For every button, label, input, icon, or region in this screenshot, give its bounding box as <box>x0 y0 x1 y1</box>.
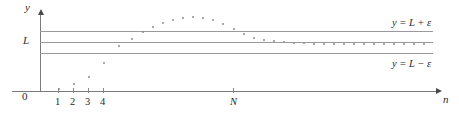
x-tick-3 <box>88 88 89 93</box>
y-axis-label: y <box>25 2 30 13</box>
sequence-point <box>373 43 375 45</box>
sequence-point <box>152 26 154 28</box>
x-tick-label-N: N <box>230 97 237 108</box>
x-tick-label-4: 4 <box>100 97 105 108</box>
sequence-point <box>363 43 365 45</box>
sequence-point <box>303 42 305 44</box>
sequence-point <box>88 76 90 78</box>
x-axis <box>12 91 437 92</box>
sequence-point <box>413 43 415 45</box>
sequence-point <box>118 45 120 47</box>
sequence-point <box>263 39 265 41</box>
sequence-point <box>343 43 345 45</box>
sequence-point <box>212 19 214 21</box>
sequence-point <box>293 42 295 44</box>
upper-band-label: y = L + ε <box>392 18 431 29</box>
sequence-point <box>283 41 285 43</box>
origin-label: 0 <box>22 91 28 102</box>
lower-band-label: y = L − ε <box>392 59 431 70</box>
sequence-point <box>383 43 385 45</box>
sequence-point <box>323 43 325 45</box>
sequence-point <box>353 43 355 45</box>
sequence-point <box>73 83 75 85</box>
sequence-point <box>313 43 315 45</box>
upper-band-line <box>40 31 433 32</box>
sequence-point <box>273 40 275 42</box>
x-axis-label: n <box>443 94 449 105</box>
x-tick-2 <box>73 88 74 93</box>
sequence-point <box>333 43 335 45</box>
sequence-point <box>162 22 164 24</box>
x-tick-N <box>233 88 234 93</box>
limit-definition-diagram: y n 0 y = L + ε L y = L − ε 1234N <box>0 0 459 116</box>
sequence-point <box>103 62 105 64</box>
sequence-point <box>131 38 133 40</box>
x-tick-label-1: 1 <box>55 97 60 108</box>
sequence-point <box>233 28 235 30</box>
sequence-point <box>142 31 144 33</box>
y-axis-arrowhead <box>38 9 44 15</box>
x-tick-label-2: 2 <box>70 97 75 108</box>
sequence-point <box>243 33 245 35</box>
sequence-point <box>222 23 224 25</box>
sequence-point <box>393 43 395 45</box>
x-axis-arrowhead <box>436 88 442 94</box>
sequence-point <box>182 17 184 19</box>
sequence-point <box>253 37 255 39</box>
sequence-point <box>423 43 425 45</box>
sequence-point <box>58 88 60 90</box>
x-tick-4 <box>103 88 104 93</box>
limit-label: L <box>23 35 29 46</box>
x-tick-label-3: 3 <box>85 97 90 108</box>
sequence-point <box>403 43 405 45</box>
sequence-point <box>192 16 194 18</box>
sequence-point <box>202 17 204 19</box>
lower-band-line <box>40 53 433 54</box>
sequence-point <box>172 19 174 21</box>
